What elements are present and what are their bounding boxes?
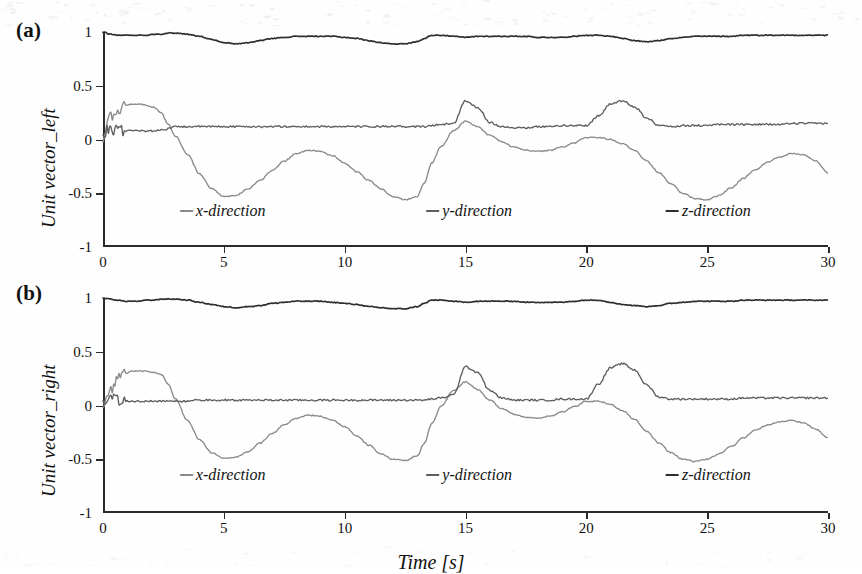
series-line-z-direction (103, 298, 827, 309)
x-tick-mark (828, 513, 830, 519)
y-tick-label: -0.5 (68, 451, 92, 468)
y-tick-label: 1 (85, 290, 93, 307)
series-line-y-direction (103, 100, 827, 137)
legend-swatch-y-direction (426, 210, 439, 212)
y-tick-mark (96, 459, 103, 461)
y-tick-label: 0.5 (73, 343, 92, 360)
legend-item-y-direction: y-direction (426, 466, 512, 484)
x-tick-label: 15 (458, 520, 473, 537)
x-axis-title: Time [s] (0, 551, 862, 574)
x-tick-mark (224, 513, 226, 519)
y-tick-mark (96, 193, 103, 195)
legend-swatch-z-direction (666, 210, 679, 212)
legend-label-y-direction: y-direction (442, 202, 512, 220)
y-tick-label: -1 (80, 239, 93, 256)
panel-a: (a) Unit vector_left -1-0.500.5105101520… (0, 0, 862, 283)
x-tick-mark (586, 513, 588, 519)
legend-item-x-direction: x-direction (180, 202, 266, 220)
legend-label-z-direction: z-direction (682, 202, 751, 220)
series-line-y-direction (103, 363, 827, 405)
x-tick-mark (707, 247, 709, 253)
y-tick-mark (96, 352, 103, 354)
legend-swatch-x-direction (180, 474, 193, 476)
panel-a-y-axis-title: Unit vector_left (38, 108, 60, 228)
series-line-x-direction (103, 102, 827, 200)
y-tick-label: 0 (85, 131, 93, 148)
legend-item-y-direction: y-direction (426, 202, 512, 220)
y-tick-label: -1 (80, 505, 93, 522)
legend-label-x-direction: x-direction (196, 202, 266, 220)
panel-b-y-axis-title: Unit vector_right (38, 365, 60, 497)
x-tick-mark (586, 247, 588, 253)
x-tick-label: 30 (821, 520, 836, 537)
y-tick-mark (96, 86, 103, 88)
x-tick-label: 5 (220, 520, 228, 537)
x-tick-label: 10 (337, 520, 352, 537)
legend-item-z-direction: z-direction (666, 202, 751, 220)
x-tick-mark (828, 247, 830, 253)
panel-a-plot-area: -1-0.500.51051015202530 x-directiony-dir… (103, 32, 828, 247)
series-line-z-direction (103, 32, 827, 44)
legend-swatch-x-direction (180, 210, 193, 212)
y-tick-label: 0.5 (73, 77, 92, 94)
panel-b: (b) Unit vector_right -1-0.500.510510152… (0, 265, 862, 567)
x-tick-mark (345, 513, 347, 519)
panel-b-plot-area: -1-0.500.51051015202530 x-directiony-dir… (103, 298, 828, 513)
legend-label-y-direction: y-direction (442, 466, 512, 484)
legend-item-z-direction: z-direction (666, 466, 751, 484)
y-tick-label: 0 (85, 397, 93, 414)
panel-a-tag: (a) (16, 18, 41, 43)
legend-label-z-direction: z-direction (682, 466, 751, 484)
y-tick-mark (96, 140, 103, 142)
legend-swatch-z-direction (666, 474, 679, 476)
x-tick-mark (466, 513, 468, 519)
y-tick-mark (96, 406, 103, 408)
x-tick-mark (466, 247, 468, 253)
x-tick-label: 25 (700, 520, 715, 537)
x-tick-mark (345, 247, 347, 253)
x-tick-mark (224, 247, 226, 253)
x-tick-label: 20 (579, 520, 594, 537)
y-tick-label: -0.5 (68, 185, 92, 202)
x-tick-mark (707, 513, 709, 519)
y-tick-label: 1 (85, 24, 93, 41)
legend-label-x-direction: x-direction (196, 466, 266, 484)
panel-b-tag: (b) (16, 281, 42, 306)
x-tick-label: 0 (99, 520, 107, 537)
legend-swatch-y-direction (426, 474, 439, 476)
series-line-x-direction (103, 369, 827, 462)
legend-item-x-direction: x-direction (180, 466, 266, 484)
